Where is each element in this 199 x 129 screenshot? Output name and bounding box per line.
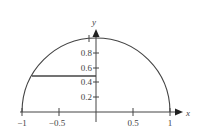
y-tick-label: 0.2: [81, 92, 92, 102]
x-axis-label: x: [185, 108, 190, 118]
semicircle-diagram: −1 −0.5 0.5 1 0.2 0.4 0.6 0.8 x y: [0, 0, 199, 129]
x-axis-arrow-icon: [175, 109, 183, 116]
y-axis-label: y: [91, 17, 96, 27]
y-tick-label: 0.6: [81, 63, 93, 73]
x-tick-label: −0.5: [49, 118, 66, 128]
y-axis-arrow-icon: [93, 29, 100, 37]
y-tick-label: 0.4: [81, 77, 93, 87]
y-tick-label: 0.8: [81, 48, 93, 58]
x-tick-label: −1: [17, 118, 27, 128]
x-tick-label: 0.5: [127, 118, 139, 128]
x-tick-label: 1: [168, 118, 173, 128]
